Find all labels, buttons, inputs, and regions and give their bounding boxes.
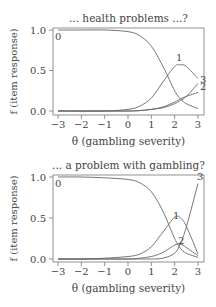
y-axis-label: f (item response) (8, 28, 19, 114)
curve-label: 0 (55, 31, 61, 42)
curve-category-1 (58, 216, 198, 259)
y-tick-label: 0.0 (30, 106, 46, 117)
x-tick-label: −1 (97, 119, 112, 130)
curve-category-1 (58, 65, 198, 112)
x-tick-label: 1 (148, 266, 154, 277)
x-tick-label: 0 (125, 266, 131, 277)
chart-title: ... a problem with gambling? (52, 159, 205, 171)
x-tick-label: 2 (171, 266, 177, 277)
curve-label: 1 (176, 52, 182, 63)
curve-category-3 (58, 184, 198, 260)
y-tick-label: 0.5 (30, 213, 46, 224)
y-tick-label: 1.0 (30, 25, 46, 36)
x-tick-label: −3 (51, 119, 66, 130)
x-tick-label: 3 (195, 266, 201, 277)
plot-frame (53, 28, 204, 115)
curve-category-3 (58, 83, 198, 111)
x-tick-label: −2 (74, 119, 89, 130)
x-tick-label: 2 (171, 119, 177, 130)
y-tick-label: 0.0 (30, 254, 46, 265)
y-tick-label: 0.5 (30, 65, 46, 76)
y-axis-label: f (item response) (8, 175, 19, 261)
x-axis-label: θ (gambling severity) (72, 282, 185, 294)
x-tick-label: 3 (195, 119, 201, 130)
x-tick-label: −1 (97, 266, 112, 277)
curve-label: 2 (178, 235, 184, 246)
x-tick-label: −3 (51, 266, 66, 277)
curve-label: 3 (197, 171, 203, 182)
y-tick-label: 1.0 (30, 172, 46, 183)
x-tick-label: 0 (125, 119, 131, 130)
curve-category-0 (58, 30, 198, 109)
curve-label: 0 (55, 178, 61, 189)
chart-title: ... health problems ...? (69, 12, 188, 24)
x-tick-label: −2 (74, 266, 89, 277)
x-axis-label: θ (gambling severity) (72, 135, 185, 147)
chart-problem-with-gambling: ... a problem with gambling?−3−2−101230.… (8, 159, 205, 294)
chart-health-problems: ... health problems ...?−3−2−101230.00.5… (8, 12, 206, 147)
figure: ... health problems ...?−3−2−101230.00.5… (0, 0, 216, 307)
curve-label: 2 (200, 81, 206, 92)
x-tick-label: 1 (148, 119, 154, 130)
curve-label: 1 (173, 210, 179, 221)
